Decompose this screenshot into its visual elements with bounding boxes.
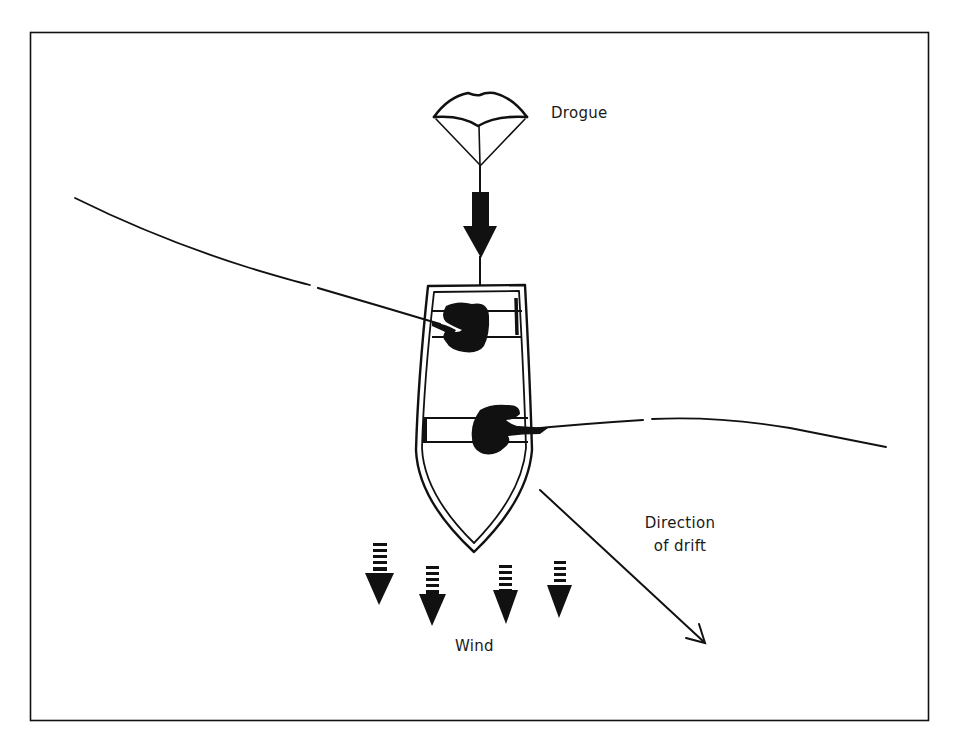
fishing-line-left	[75, 198, 440, 324]
wind-arrow-icon	[419, 566, 446, 626]
drift-label-line1: Direction	[620, 514, 740, 533]
wind-arrow-icon	[365, 543, 394, 605]
drogue-pull-arrow-icon	[463, 165, 497, 285]
wind-arrows	[365, 543, 572, 626]
wind-arrow-icon	[493, 565, 518, 624]
angler-2-silhouette	[472, 405, 548, 455]
angler-1-silhouette	[432, 302, 489, 352]
fishing-line-right	[530, 418, 886, 447]
drift-label-line2: of drift	[620, 537, 740, 556]
wind-label: Wind	[455, 637, 494, 656]
drogue-label: Drogue	[551, 104, 608, 123]
wind-arrow-icon	[547, 561, 572, 618]
drogue-icon	[434, 93, 527, 165]
drift-direction-arrow-icon	[540, 490, 705, 643]
